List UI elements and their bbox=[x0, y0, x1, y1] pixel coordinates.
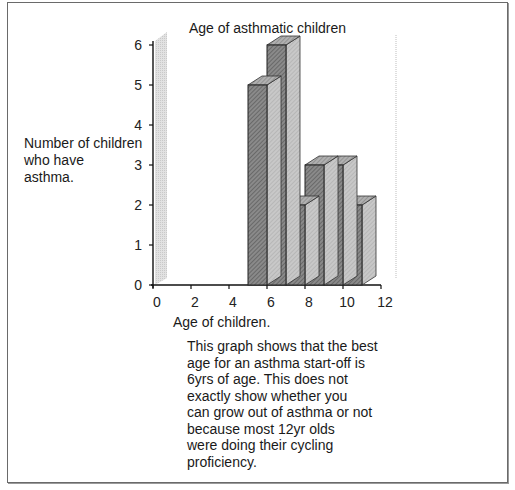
x-tick-label: 2 bbox=[191, 294, 199, 310]
caption-line: can grow out of asthma or not bbox=[187, 404, 397, 421]
bar-front-face bbox=[248, 85, 267, 285]
bar-side-face bbox=[343, 156, 357, 285]
x-tick-label: 8 bbox=[305, 294, 313, 310]
y-label-line: Number of children bbox=[24, 135, 142, 152]
caption-line: 6yrs of age. This does not bbox=[187, 371, 397, 388]
y-tick-label: 1 bbox=[134, 237, 142, 253]
y-label-line: asthma. bbox=[24, 169, 142, 186]
x-tick-label: 4 bbox=[229, 294, 237, 310]
y-tick-label: 4 bbox=[134, 117, 142, 133]
x-tick-label: 10 bbox=[339, 294, 355, 310]
y-tick-label: 6 bbox=[134, 37, 142, 53]
y-axis-label: Number of childrenwho haveasthma. bbox=[24, 135, 142, 186]
caption-line: This graph shows that the best bbox=[187, 338, 397, 355]
caption-text: This graph shows that the bestage for an… bbox=[187, 338, 397, 470]
bars bbox=[248, 36, 376, 285]
bar-side-face bbox=[267, 76, 281, 285]
x-axis-label: Age of children. bbox=[173, 314, 270, 330]
x-tick-label: 0 bbox=[153, 294, 161, 310]
y-tick-label: 5 bbox=[134, 77, 142, 93]
bar-side-face bbox=[362, 196, 376, 285]
bar-side-face bbox=[324, 156, 338, 285]
y-tick-label: 0 bbox=[134, 277, 142, 293]
left-wall bbox=[155, 32, 167, 285]
y-tick-label: 2 bbox=[134, 197, 142, 213]
caption-line: proficiency. bbox=[187, 454, 397, 471]
bar-side-face bbox=[286, 36, 300, 285]
caption-line: because most 12yr olds bbox=[187, 421, 397, 438]
caption-line: were doing their cycling bbox=[187, 437, 397, 454]
y-label-line: who have bbox=[24, 152, 142, 169]
caption-line: age for an asthma start-off is bbox=[187, 355, 397, 372]
x-tick-label: 6 bbox=[267, 294, 275, 310]
x-tick-label: 12 bbox=[377, 294, 393, 310]
caption-line: exactly show whether you bbox=[187, 388, 397, 405]
histogram-bar bbox=[248, 76, 281, 285]
bar-side-face bbox=[305, 196, 319, 285]
